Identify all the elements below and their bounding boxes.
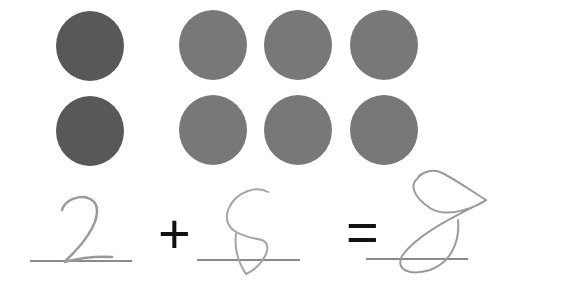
handwritten-8	[400, 171, 486, 272]
handwritten-2	[62, 197, 112, 262]
handwriting	[0, 0, 581, 284]
handwritten-6	[227, 189, 268, 274]
